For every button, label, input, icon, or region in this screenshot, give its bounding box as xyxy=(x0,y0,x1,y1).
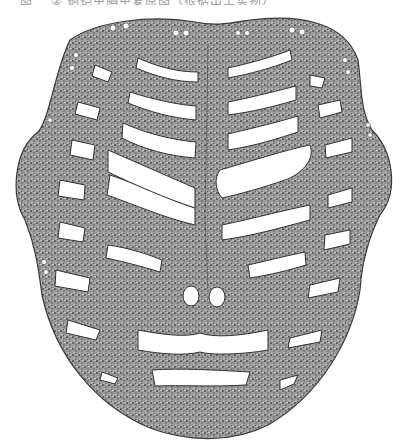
artifact-drawing xyxy=(0,0,417,448)
